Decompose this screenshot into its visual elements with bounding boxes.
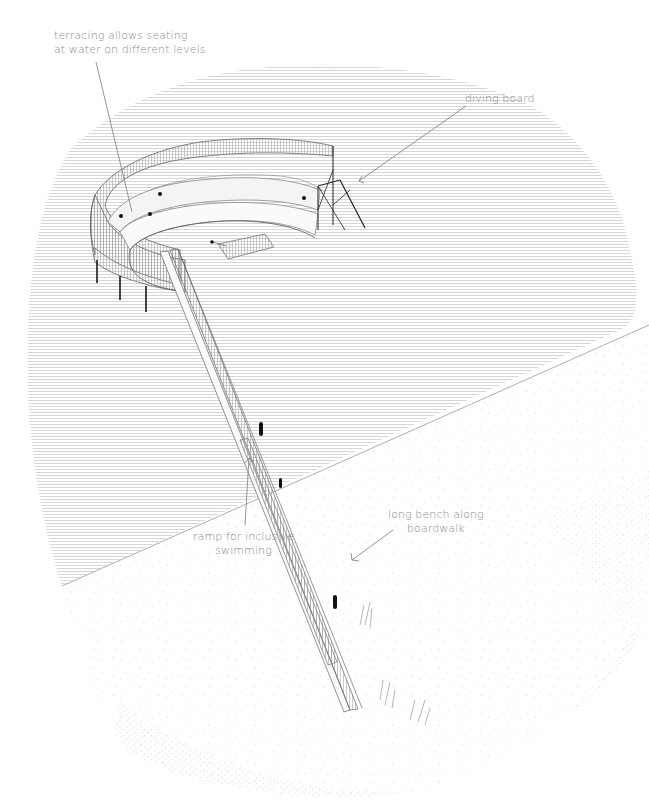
- person-figure: [333, 595, 337, 609]
- axonometric-drawing: [0, 0, 649, 807]
- annotation-line: boardwalk: [388, 522, 484, 536]
- annotation-ramp: ramp for inclusive swimming: [193, 530, 294, 558]
- annotation-line: diving board: [465, 92, 535, 106]
- annotation-terracing: terracing allows seating at water on dif…: [54, 29, 206, 57]
- person-figure: [259, 422, 263, 436]
- drawing-stage: terracing allows seating at water on dif…: [0, 0, 649, 807]
- annotation-line: at water on different levels: [54, 43, 206, 57]
- annotation-line: swimming: [193, 544, 294, 558]
- person-figure: [158, 192, 162, 196]
- person-figure: [279, 478, 282, 488]
- annotation-long-bench: long bench along boardwalk: [388, 508, 484, 536]
- annotation-line: long bench along: [388, 508, 484, 522]
- person-figure: [302, 196, 306, 200]
- annotation-diving-board: diving board: [465, 92, 535, 106]
- annotation-line: terracing allows seating: [54, 29, 206, 43]
- person-figure: [119, 214, 123, 218]
- person-figure: [148, 212, 152, 216]
- annotation-line: ramp for inclusive: [193, 530, 294, 544]
